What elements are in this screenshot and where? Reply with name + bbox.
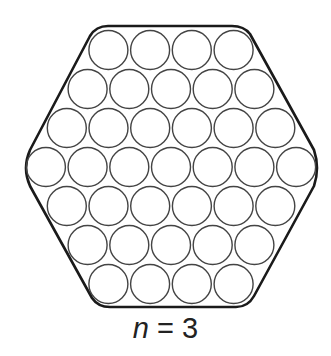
packed-circle: [235, 148, 274, 187]
packed-circle: [193, 226, 232, 265]
packed-circle: [68, 70, 107, 109]
packed-circle: [131, 187, 170, 226]
packed-circle: [152, 148, 191, 187]
packed-circle: [172, 109, 211, 148]
packed-circle: [172, 187, 211, 226]
caption-variable: n: [133, 312, 149, 344]
packed-circle: [214, 265, 253, 304]
caption-equals: =: [149, 312, 182, 344]
packed-circle: [89, 109, 128, 148]
packed-circle: [172, 265, 211, 304]
packed-circle: [110, 148, 149, 187]
packed-circle: [256, 109, 295, 148]
caption-value: 3: [182, 312, 198, 344]
packed-circle: [172, 31, 211, 70]
packed-circle: [131, 31, 170, 70]
packed-circle: [235, 226, 274, 265]
packed-circle: [277, 148, 316, 187]
packed-circle: [89, 265, 128, 304]
packed-circle: [47, 187, 86, 226]
packed-circle: [193, 148, 232, 187]
packed-circle: [89, 31, 128, 70]
packed-circle: [193, 70, 232, 109]
packed-circle: [214, 109, 253, 148]
packed-circle: [47, 109, 86, 148]
packed-circle: [256, 187, 295, 226]
packed-circle: [26, 148, 65, 187]
caption-label: n = 3: [0, 312, 331, 345]
packed-circle: [235, 70, 274, 109]
packed-circle: [152, 226, 191, 265]
hexagon-circle-packing-diagram: [0, 0, 331, 356]
packed-circle: [131, 265, 170, 304]
packed-circle: [68, 226, 107, 265]
packed-circle: [214, 31, 253, 70]
packed-circle: [152, 70, 191, 109]
packed-circle: [68, 148, 107, 187]
packed-circle: [89, 187, 128, 226]
packed-circle: [131, 109, 170, 148]
packed-circle: [110, 70, 149, 109]
packed-circle: [214, 187, 253, 226]
packed-circle: [110, 226, 149, 265]
